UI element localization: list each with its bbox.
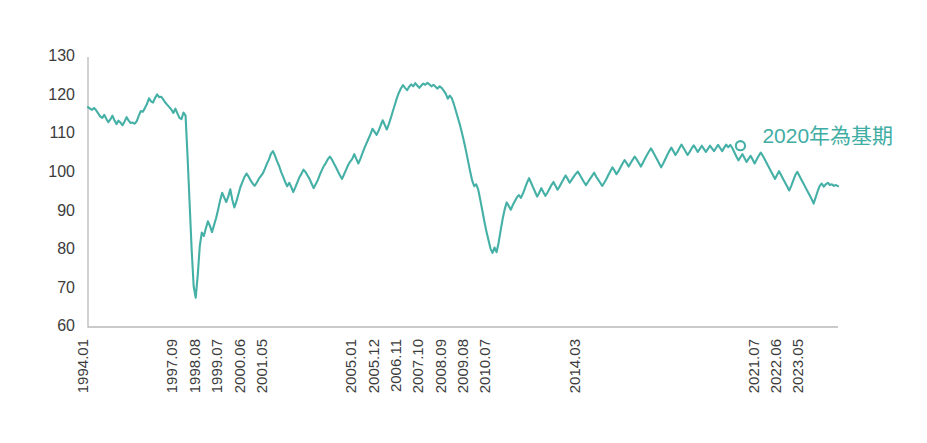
y-tick-label: 130 <box>48 47 75 64</box>
x-axis-tick-labels: 1994.011997.091998.081999.072000.062001.… <box>74 339 806 393</box>
y-tick-label: 90 <box>57 202 75 219</box>
x-tick-label: 1994.01 <box>74 339 91 393</box>
base-period-label: 2020年為基期 <box>762 124 893 147</box>
y-tick-label: 120 <box>48 86 75 103</box>
x-tick-label: 1999.07 <box>208 339 225 393</box>
y-tick-label: 80 <box>57 240 75 257</box>
x-tick-label: 2007.10 <box>409 339 426 393</box>
data-series-group <box>88 83 838 298</box>
y-tick-label: 100 <box>48 163 75 180</box>
x-tick-label: 2000.06 <box>231 339 248 393</box>
x-tick-label: 1998.08 <box>186 339 203 393</box>
base-period-marker <box>736 141 745 150</box>
chart-axes <box>88 57 838 327</box>
x-tick-label: 2001.05 <box>253 339 270 393</box>
x-tick-label: 2014.03 <box>566 339 583 393</box>
y-tick-label: 110 <box>49 124 75 141</box>
x-tick-label: 2023.05 <box>789 339 806 393</box>
index-series-line <box>88 83 838 298</box>
x-tick-label: 2005.12 <box>365 339 382 393</box>
annotation-group: 2020年為基期 <box>736 124 893 150</box>
y-axis-tick-labels: 60708090100110120130 <box>48 47 75 334</box>
axis-lines <box>88 57 838 327</box>
x-tick-label: 2005.01 <box>342 339 359 393</box>
y-tick-label: 60 <box>57 317 75 334</box>
line-chart: 60708090100110120130 1994.011997.091998.… <box>0 0 927 443</box>
x-tick-label: 2022.06 <box>767 339 784 393</box>
x-tick-label: 2010.07 <box>476 339 493 393</box>
chart-canvas: 60708090100110120130 1994.011997.091998.… <box>0 0 927 443</box>
y-tick-label: 70 <box>57 279 75 296</box>
x-tick-label: 2008.09 <box>432 339 449 393</box>
x-tick-label: 2021.07 <box>745 339 762 393</box>
x-tick-label: 2006.11 <box>387 339 404 392</box>
x-tick-label: 2009.08 <box>454 339 471 393</box>
x-tick-label: 1997.09 <box>163 339 180 393</box>
